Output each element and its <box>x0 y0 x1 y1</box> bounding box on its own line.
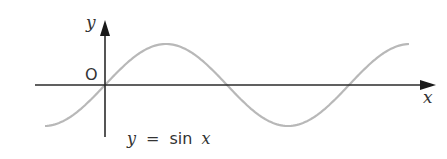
x-axis-label: x <box>423 87 433 107</box>
curve-label-lhs: y <box>126 129 137 148</box>
curve-label: y = sin x <box>126 129 210 148</box>
y-axis-arrow-icon <box>100 20 110 36</box>
curve-label-eq: = <box>146 129 159 148</box>
origin-label: O <box>85 65 98 84</box>
curve-label-arg: x <box>201 129 210 148</box>
sine-graph: y x O y = sin x <box>0 0 447 159</box>
curve-label-fn: sin <box>169 129 192 148</box>
y-axis-label: y <box>85 12 96 32</box>
